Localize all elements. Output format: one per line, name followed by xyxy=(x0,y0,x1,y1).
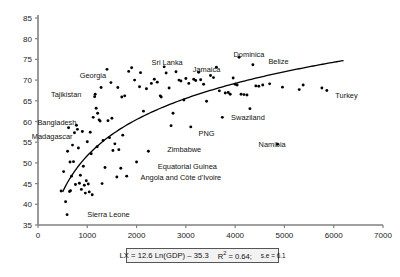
data-point xyxy=(96,112,99,115)
data-point xyxy=(135,161,138,164)
data-point xyxy=(189,125,192,128)
point-label: Sierra Leone xyxy=(87,210,129,219)
data-point xyxy=(102,139,105,142)
data-point xyxy=(94,93,97,96)
point-label: Swaziland xyxy=(231,113,265,122)
data-point xyxy=(86,140,89,143)
data-point xyxy=(184,77,187,80)
data-point xyxy=(121,134,124,137)
y-axis-tick-label: 70 xyxy=(23,76,32,85)
point-label: Georgia xyxy=(80,71,107,80)
data-point xyxy=(302,84,305,87)
data-point xyxy=(224,91,227,94)
data-point xyxy=(72,160,75,163)
y-axis-tick-label: 85 xyxy=(23,14,32,23)
point-label: Bangladesh xyxy=(37,118,76,127)
regression-equation-box: LX = 12.6 Ln(GDP) – 35.3 R2 = 0.64; s.e … xyxy=(126,248,279,263)
data-point xyxy=(64,200,67,203)
data-point xyxy=(80,188,83,191)
r-squared-value: = 0.64; xyxy=(226,252,252,261)
y-axis-tick-label: 80 xyxy=(23,35,32,44)
data-point xyxy=(130,66,133,69)
data-point xyxy=(107,119,110,122)
data-point xyxy=(232,77,235,80)
data-point xyxy=(243,93,246,96)
data-point xyxy=(69,161,72,164)
y-axis-tick-label: 60 xyxy=(23,118,32,127)
data-point xyxy=(194,79,197,82)
point-label: Angola and Côte d'Ivoire xyxy=(141,173,222,182)
data-point xyxy=(111,149,114,152)
data-point xyxy=(172,112,175,115)
data-point xyxy=(79,174,82,177)
data-point xyxy=(153,78,156,81)
data-point xyxy=(96,145,99,148)
point-label: Equatorial Guinea xyxy=(158,162,218,171)
data-point xyxy=(87,183,90,186)
y-axis-tick-label: 75 xyxy=(23,55,32,64)
point-label: Zimbabwe xyxy=(167,145,201,154)
data-point xyxy=(89,131,92,134)
scatter-chart-figure: 3540455055606570758085010002000300040005… xyxy=(0,0,400,277)
data-point xyxy=(70,175,73,178)
x-axis-tick-label: 2000 xyxy=(128,231,146,240)
data-point xyxy=(187,82,190,85)
data-point xyxy=(254,84,257,87)
regression-curve xyxy=(63,61,344,192)
data-point xyxy=(218,89,221,92)
data-point xyxy=(77,147,80,150)
x-axis-tick-label: 4000 xyxy=(226,231,244,240)
y-axis-tick-label: 40 xyxy=(23,200,32,209)
data-point xyxy=(248,107,251,110)
data-point xyxy=(240,93,243,96)
data-point xyxy=(139,71,142,74)
point-label: Tajikistan xyxy=(51,90,81,99)
data-point xyxy=(90,152,93,155)
x-axis-tick-label: 5000 xyxy=(276,231,294,240)
data-point xyxy=(95,107,98,110)
data-point xyxy=(199,78,202,81)
data-point xyxy=(209,74,212,77)
point-label: Belize xyxy=(268,57,288,66)
point-label: Dominica xyxy=(234,50,266,59)
regression-equation-text: LX = 12.6 Ln(GDP) – 35.3 xyxy=(119,251,208,260)
data-point xyxy=(325,89,328,92)
data-point xyxy=(62,170,65,173)
data-point xyxy=(74,183,77,186)
data-point xyxy=(221,116,224,119)
data-point xyxy=(83,184,86,187)
data-point xyxy=(268,82,271,85)
data-point xyxy=(145,87,148,90)
data-point xyxy=(109,81,112,84)
data-point xyxy=(298,88,301,91)
data-point xyxy=(123,94,126,97)
data-point xyxy=(69,189,72,192)
data-point xyxy=(281,86,284,89)
x-axis-tick-label: 1000 xyxy=(78,231,96,240)
data-point xyxy=(160,96,163,99)
data-point xyxy=(104,166,107,169)
data-point xyxy=(73,131,76,134)
plot-svg: 3540455055606570758085010002000300040005… xyxy=(0,0,400,277)
data-point xyxy=(82,165,85,168)
data-point xyxy=(113,142,116,145)
data-point xyxy=(116,86,119,89)
data-point xyxy=(71,144,74,147)
data-point xyxy=(156,81,159,84)
y-axis-tick-label: 65 xyxy=(23,97,32,106)
data-point xyxy=(236,84,239,87)
data-point xyxy=(66,150,69,153)
data-point xyxy=(117,148,120,151)
data-point xyxy=(60,190,63,193)
data-point xyxy=(119,167,122,170)
point-label: Sri Lanka xyxy=(152,58,184,67)
data-point xyxy=(257,85,260,88)
standard-error-stat: s.e = 6.1 xyxy=(261,252,286,259)
data-point xyxy=(66,213,69,216)
data-point xyxy=(81,130,84,133)
data-point xyxy=(205,100,208,103)
data-point xyxy=(125,175,128,178)
data-point xyxy=(182,99,185,102)
x-axis-tick-label: 3000 xyxy=(177,231,195,240)
data-point xyxy=(168,87,171,90)
